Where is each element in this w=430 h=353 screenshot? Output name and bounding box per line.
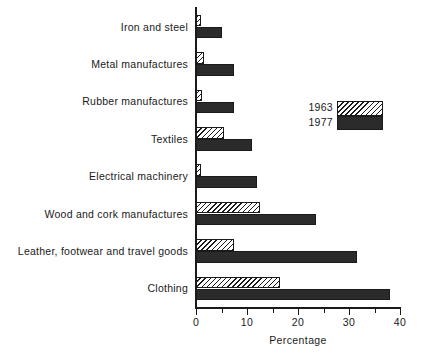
bar-1977-4 xyxy=(196,176,257,188)
x-tick-label-30: 30 xyxy=(343,316,355,328)
bar-1963-1 xyxy=(196,52,204,64)
x-tick-major-20 xyxy=(298,308,299,315)
category-label-0: Iron and steel xyxy=(121,21,188,33)
bar-1977-3 xyxy=(196,139,252,151)
category-label-7: Clothing xyxy=(147,282,188,294)
x-tick-major-0 xyxy=(196,308,197,315)
x-axis-title: Percentage xyxy=(269,334,327,346)
bar-1963-6 xyxy=(196,239,234,251)
bar-1977-1 xyxy=(196,64,234,76)
bar-1977-2 xyxy=(196,102,234,114)
x-tick-minor-25 xyxy=(324,308,325,313)
category-label-6: Leather, footwear and travel goods xyxy=(18,245,188,257)
bar-1977-0 xyxy=(196,27,222,39)
x-tick-label-10: 10 xyxy=(241,316,253,328)
x-tick-major-10 xyxy=(247,308,248,315)
x-tick-major-30 xyxy=(349,308,350,315)
category-label-2: Rubber manufactures xyxy=(82,95,188,107)
x-tick-label-40: 40 xyxy=(394,316,406,328)
category-label-1: Metal manufactures xyxy=(91,58,188,70)
category-label-4: Electrical machinery xyxy=(89,170,188,182)
bar-1977-6 xyxy=(196,251,357,263)
x-tick-minor-15 xyxy=(273,308,274,313)
bar-1963-7 xyxy=(196,277,280,289)
bar-1977-7 xyxy=(196,289,390,301)
bar-1963-4 xyxy=(196,164,201,176)
category-label-3: Textiles xyxy=(151,133,188,145)
x-tick-label-0: 0 xyxy=(193,316,199,328)
bar-1963-3 xyxy=(196,127,224,139)
bar-1977-5 xyxy=(196,214,316,226)
category-label-5: Wood and cork manufactures xyxy=(45,208,188,220)
x-tick-minor-5 xyxy=(222,308,223,313)
bar-chart: Iron and steelMetal manufacturesRubber m… xyxy=(0,0,430,353)
x-tick-minor-35 xyxy=(375,308,376,313)
legend-label-1977: 1977 xyxy=(308,116,333,128)
legend-swatch-1977 xyxy=(337,116,383,131)
bar-1963-0 xyxy=(196,15,201,27)
x-tick-major-40 xyxy=(400,308,401,315)
legend: 1963 1977 xyxy=(337,101,383,131)
bar-1963-5 xyxy=(196,202,260,214)
x-tick-label-20: 20 xyxy=(292,316,304,328)
legend-swatch-1963 xyxy=(337,101,383,116)
bar-1963-2 xyxy=(196,90,202,102)
legend-label-1963: 1963 xyxy=(308,101,333,113)
